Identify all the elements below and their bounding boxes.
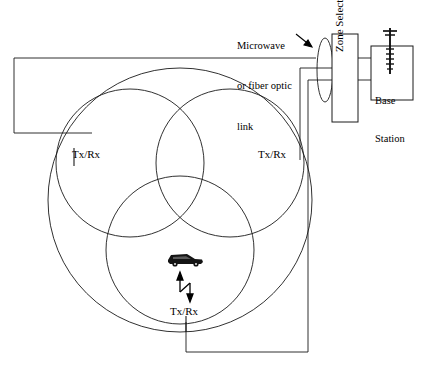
bidirectional-arrow-icon: [177, 272, 193, 302]
base-station-line-1: Base: [375, 95, 405, 108]
link-label-line-2: or fiber optic: [237, 79, 292, 92]
arrow-icon: [296, 34, 312, 47]
car-icon: [168, 254, 203, 267]
link-label-line-1: Microwave: [237, 39, 292, 52]
base-station-label: Base Station: [375, 70, 405, 171]
site-label-bottom-center: Tx/Rx: [170, 305, 198, 318]
link-path-top-right: [300, 68, 332, 160]
ellipse-link-icon: [317, 38, 333, 102]
microwave-link-label: Microwave or fiber optic link: [237, 12, 292, 160]
link-label-line-3: link: [237, 120, 292, 133]
site-label-top-right: Tx/Rx: [258, 148, 286, 161]
zone-selector-label: Zone Selector: [333, 0, 346, 52]
site-label-top-left: Tx/Rx: [72, 148, 100, 161]
coverage-diagram: Microwave or fiber optic link Zone Selec…: [0, 0, 421, 368]
cell-circle-top-left: [56, 89, 204, 237]
cell-circle-bottom-center: [106, 176, 254, 324]
diagram-canvas: [0, 0, 421, 368]
base-station-line-2: Station: [375, 133, 405, 146]
